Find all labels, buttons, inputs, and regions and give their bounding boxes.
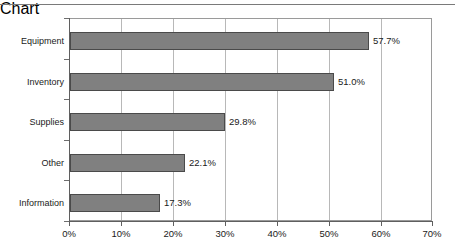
x-tick-label-50: 50% (319, 228, 338, 239)
y-axis-tick (64, 59, 69, 60)
bar-other (70, 154, 185, 172)
bar-inventory (70, 73, 334, 91)
value-label-inventory: 51.0% (338, 73, 365, 91)
value-label-other: 22.1% (189, 154, 216, 172)
category-label-information: Information (0, 194, 64, 212)
category-label-equipment: Equipment (0, 32, 64, 50)
x-axis-line (69, 221, 433, 222)
x-axis-tick-40 (277, 221, 278, 226)
x-tick-label-20: 20% (163, 228, 182, 239)
x-axis-tick-0 (69, 221, 70, 226)
x-axis-tick-30 (225, 221, 226, 226)
x-axis-tick-50 (329, 221, 330, 226)
value-label-equipment: 57.7% (373, 32, 400, 50)
value-label-information: 17.3% (164, 194, 191, 212)
top-divider-rule (0, 4, 455, 5)
y-axis-tick (64, 140, 69, 141)
x-tick-label-40: 40% (267, 228, 286, 239)
category-label-inventory: Inventory (0, 73, 64, 91)
bar-information (70, 194, 160, 212)
bar-supplies (70, 113, 225, 131)
y-axis-tick (64, 180, 69, 181)
bar-chart-figure: Equipment Inventory Supplies Other Infor… (0, 0, 455, 250)
x-tick-label-10: 10% (111, 228, 130, 239)
category-label-other: Other (0, 154, 64, 172)
x-axis-tick-10 (121, 221, 122, 226)
y-axis-tick (64, 99, 69, 100)
value-label-supplies: 29.8% (229, 113, 256, 131)
x-axis-tick-20 (173, 221, 174, 226)
y-axis-tick (64, 18, 69, 19)
x-tick-label-70: 70% (422, 228, 441, 239)
x-tick-label-0: 0% (62, 228, 76, 239)
x-tick-label-30: 30% (215, 228, 234, 239)
x-tick-label-60: 60% (371, 228, 390, 239)
x-axis-tick-60 (381, 221, 382, 226)
x-axis-tick-70 (432, 221, 433, 226)
bar-equipment (70, 32, 369, 50)
category-label-supplies: Supplies (0, 113, 64, 131)
